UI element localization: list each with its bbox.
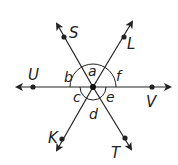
point-v (149, 84, 154, 89)
angle-label-f: f (116, 68, 123, 84)
angle-label-d: d (89, 106, 98, 122)
point-t (122, 135, 127, 140)
point-u (30, 84, 35, 89)
intersecting-lines-diagram: S L U V K T a b f c e d (0, 0, 178, 165)
angle-label-e: e (106, 89, 115, 105)
point-k (59, 136, 64, 141)
angle-label-c: c (73, 89, 81, 105)
angle-label-b: b (64, 69, 73, 85)
label-u: U (28, 66, 39, 84)
label-s: S (69, 24, 79, 42)
point-s (61, 34, 66, 39)
center-point (90, 84, 96, 90)
angle-label-a: a (88, 63, 97, 79)
label-k: K (48, 129, 59, 147)
label-l: L (127, 35, 135, 53)
label-t: T (111, 144, 122, 162)
label-v: V (146, 93, 158, 111)
point-l (121, 34, 126, 39)
